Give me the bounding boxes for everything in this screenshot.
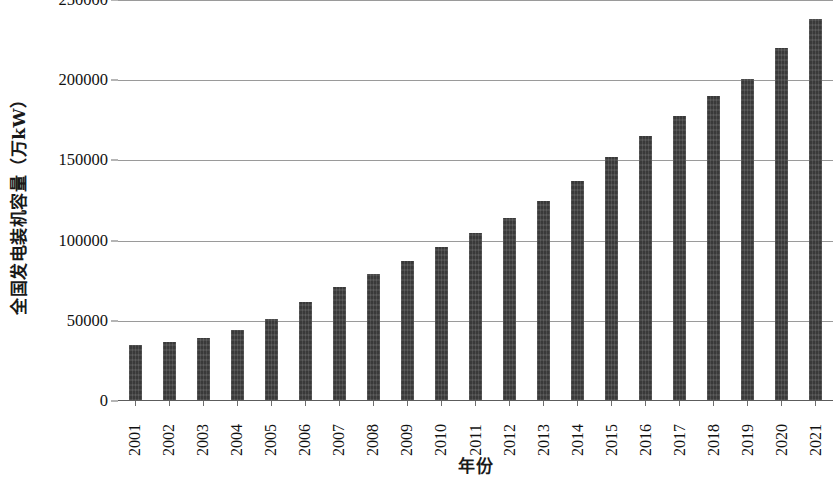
x-tick-slot: 2005 bbox=[254, 401, 288, 451]
x-tick-slot: 2019 bbox=[731, 401, 765, 451]
bar-slot bbox=[356, 0, 390, 401]
bar-slot bbox=[493, 0, 527, 401]
bar[interactable] bbox=[197, 338, 210, 401]
x-tick-slot: 2001 bbox=[118, 401, 152, 451]
x-tick-slot: 2009 bbox=[390, 401, 424, 451]
x-tick-mark bbox=[271, 401, 272, 406]
x-tick-label: 2011 bbox=[466, 424, 484, 455]
bar-slot bbox=[561, 0, 595, 401]
bar[interactable] bbox=[741, 79, 754, 401]
x-tick-mark bbox=[509, 401, 510, 406]
bar[interactable] bbox=[333, 287, 346, 401]
x-tick-slot: 2017 bbox=[663, 401, 697, 451]
bar-slot bbox=[458, 0, 492, 401]
bar[interactable] bbox=[605, 157, 618, 401]
bar-chart-figure: 全国发电装机容量（万kW） 05000010000015000020000025… bbox=[0, 0, 839, 479]
x-tick-mark bbox=[407, 401, 408, 406]
plot-area bbox=[118, 0, 833, 401]
bar[interactable] bbox=[571, 181, 584, 401]
bar[interactable] bbox=[469, 233, 482, 401]
x-tick-mark bbox=[169, 401, 170, 406]
bar[interactable] bbox=[401, 261, 414, 401]
bar-slot bbox=[731, 0, 765, 401]
bar-slot bbox=[254, 0, 288, 401]
x-axis-tick-labels: 2001200220032004200520062007200820092010… bbox=[118, 401, 833, 451]
bar-slot bbox=[390, 0, 424, 401]
y-axis-title-text: 全国发电装机容量（万kW） bbox=[5, 90, 30, 314]
bar-slot bbox=[220, 0, 254, 401]
x-tick-mark bbox=[543, 401, 544, 406]
x-tick-mark bbox=[679, 401, 680, 406]
bar[interactable] bbox=[129, 345, 142, 401]
y-tick-mark bbox=[111, 240, 118, 241]
bar[interactable] bbox=[231, 330, 244, 401]
x-tick-mark bbox=[135, 401, 136, 406]
x-tick-slot: 2012 bbox=[493, 401, 527, 451]
bar[interactable] bbox=[299, 302, 312, 401]
x-tick-mark bbox=[203, 401, 204, 406]
y-tick-label: 150000 bbox=[59, 150, 109, 170]
x-tick-slot: 2013 bbox=[527, 401, 561, 451]
bar-slot bbox=[152, 0, 186, 401]
y-axis-title: 全国发电装机容量（万kW） bbox=[0, 0, 34, 405]
bar-slot bbox=[186, 0, 220, 401]
x-tick-mark bbox=[339, 401, 340, 406]
bar[interactable] bbox=[503, 218, 516, 401]
x-tick-slot: 2002 bbox=[152, 401, 186, 451]
bar[interactable] bbox=[707, 96, 720, 401]
y-tick-label: 250000 bbox=[59, 0, 109, 10]
bar-slot bbox=[629, 0, 663, 401]
x-tick-mark bbox=[713, 401, 714, 406]
x-tick-slot: 2011 bbox=[458, 401, 492, 451]
bar[interactable] bbox=[367, 274, 380, 401]
bar[interactable] bbox=[639, 136, 652, 401]
y-tick-mark bbox=[111, 401, 118, 402]
bar[interactable] bbox=[673, 116, 686, 402]
y-tick-label: 100000 bbox=[59, 231, 109, 251]
y-tick-label: 0 bbox=[100, 391, 108, 411]
bar-slot bbox=[322, 0, 356, 401]
x-tick-slot: 2015 bbox=[595, 401, 629, 451]
x-tick-slot: 2007 bbox=[322, 401, 356, 451]
x-tick-mark bbox=[373, 401, 374, 406]
x-tick-slot: 2021 bbox=[799, 401, 833, 451]
bar[interactable] bbox=[265, 319, 278, 401]
x-tick-mark bbox=[611, 401, 612, 406]
x-tick-slot: 2016 bbox=[629, 401, 663, 451]
bar-slot bbox=[527, 0, 561, 401]
x-tick-mark bbox=[441, 401, 442, 406]
y-tick-label: 50000 bbox=[67, 311, 108, 331]
bar-slot bbox=[424, 0, 458, 401]
x-tick-mark bbox=[305, 401, 306, 406]
bar-slot bbox=[799, 0, 833, 401]
y-tick-mark bbox=[111, 0, 118, 1]
x-tick-mark bbox=[781, 401, 782, 406]
x-tick-slot: 2008 bbox=[356, 401, 390, 451]
x-tick-mark bbox=[475, 401, 476, 406]
y-tick-label: 200000 bbox=[59, 70, 109, 90]
x-tick-mark bbox=[237, 401, 238, 406]
x-tick-mark bbox=[645, 401, 646, 406]
bar-slot bbox=[118, 0, 152, 401]
bar-slot bbox=[595, 0, 629, 401]
x-tick-slot: 2018 bbox=[697, 401, 731, 451]
bar[interactable] bbox=[775, 48, 788, 401]
x-tick-mark bbox=[577, 401, 578, 406]
bar-slot bbox=[765, 0, 799, 401]
y-axis-tick-labels: 050000100000150000200000250000 bbox=[34, 0, 118, 410]
x-tick-mark bbox=[747, 401, 748, 406]
bar[interactable] bbox=[809, 19, 822, 401]
bar-slot bbox=[288, 0, 322, 401]
x-tick-slot: 2006 bbox=[288, 401, 322, 451]
bar-series bbox=[118, 0, 833, 401]
bar[interactable] bbox=[537, 201, 550, 402]
x-tick-slot: 2014 bbox=[561, 401, 595, 451]
bar[interactable] bbox=[163, 342, 176, 401]
x-tick-slot: 2004 bbox=[220, 401, 254, 451]
x-tick-slot: 2010 bbox=[424, 401, 458, 451]
bar[interactable] bbox=[435, 247, 448, 401]
bar-slot bbox=[663, 0, 697, 401]
x-axis-title: 年份 bbox=[118, 452, 833, 477]
y-tick-mark bbox=[111, 80, 118, 81]
x-tick-slot: 2020 bbox=[765, 401, 799, 451]
